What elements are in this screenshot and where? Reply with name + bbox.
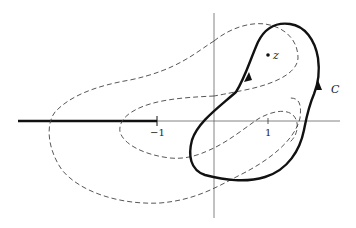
contour-c [190, 24, 319, 181]
tick-label-minus-one: −1 [150, 127, 165, 138]
tick-label-one: 1 [265, 127, 271, 138]
point-z [266, 53, 270, 57]
point-z-label: z [272, 49, 279, 62]
contour-c-label: C [331, 83, 340, 96]
contour-diagram: z C −1 1 [0, 0, 356, 228]
outer-dashed-curve-upper [214, 24, 298, 96]
